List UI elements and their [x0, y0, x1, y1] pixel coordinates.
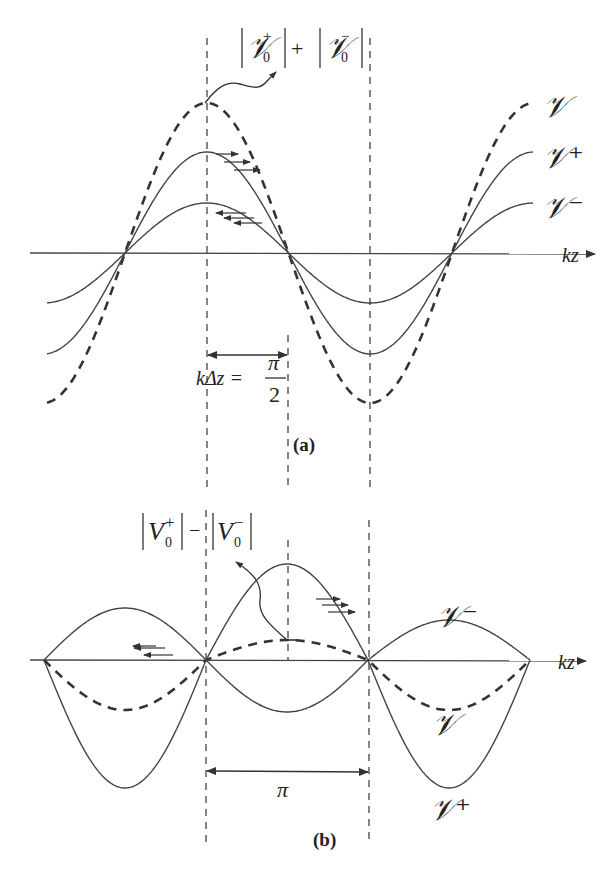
formula-b-sup-right: −: [234, 513, 244, 532]
spacing-numerator-a: π: [268, 350, 280, 375]
formula-a-sub-left: 0: [263, 50, 270, 65]
total-wave-curve-b: [44, 640, 530, 710]
wave-diagram: 𝒱 + 0 + 𝒱 − 0 𝒱 𝒱⁺ 𝒱⁻ kz kΔz = π 2 (a): [0, 0, 613, 881]
forward-wave-curve-b: [44, 660, 530, 788]
spacing-lhs-a: kΔz =: [196, 367, 243, 389]
kz-axis-b: [30, 660, 586, 661]
backward-propagation-arrows-a: [216, 213, 262, 223]
spacing-arrow-b: [207, 771, 368, 772]
formula-b-sub-left: 0: [165, 535, 172, 550]
label-forward-a: 𝒱⁺: [543, 140, 584, 175]
formula-a-operator: +: [291, 36, 303, 61]
formula-b-operator: −: [189, 519, 200, 541]
backward-propagation-arrows-b: [130, 641, 173, 655]
spacing-label-b: π: [277, 777, 289, 802]
forward-propagation-arrows-b: [316, 599, 355, 612]
formula-a-sub-right: 0: [341, 50, 348, 65]
kz-axis-a: [30, 253, 595, 254]
amplitude-difference-formula: V + 0 − V − 0: [143, 513, 251, 550]
label-backward-b: 𝒱⁻: [437, 599, 478, 634]
formula-a-sup-right: −: [341, 28, 349, 44]
amplitude-sum-formula: 𝒱 + 0 + 𝒱 − 0: [242, 28, 362, 68]
formula-a-sup-left: +: [263, 28, 271, 44]
formula-b-sub-right: 0: [234, 535, 241, 550]
formula-b-sup-left: +: [165, 513, 175, 532]
panel-a: 𝒱 + 0 + 𝒱 − 0 𝒱 𝒱⁺ 𝒱⁻ kz kΔz = π 2 (a): [30, 28, 595, 490]
caption-a: (a): [293, 434, 315, 456]
axis-label-kz-b: kz: [558, 651, 575, 673]
axis-label-kz-a: kz: [562, 244, 579, 266]
label-total-b: 𝒱: [432, 707, 466, 742]
label-total-a: 𝒱: [543, 89, 577, 124]
caption-b: (b): [313, 829, 336, 851]
pointer-arrow-b: [236, 562, 287, 640]
pointer-arrow-a: [205, 72, 276, 103]
spacing-denominator-a: 2: [269, 382, 280, 407]
label-forward-b: 𝒱⁺: [430, 792, 471, 827]
label-backward-a: 𝒱⁻: [543, 190, 584, 225]
panel-b: V + 0 − V − 0 𝒱⁻ 𝒱 𝒱⁺ kz π (b): [30, 510, 586, 851]
